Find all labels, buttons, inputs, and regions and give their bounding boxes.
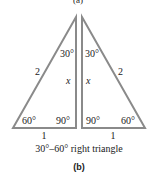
left-bottom-left-angle: 60°: [22, 115, 36, 126]
right-vertical-side: x: [85, 75, 91, 86]
figure-sub-label: (b): [73, 162, 85, 172]
figure-caption: 30°–60° right triangle: [35, 143, 123, 154]
right-top-angle: 30°: [85, 48, 99, 59]
left-top-angle: 30°: [60, 48, 74, 59]
top-partial-label: (a): [73, 0, 83, 5]
left-vertical-side: x: [65, 75, 71, 86]
left-bottom-right-angle: 90°: [56, 115, 70, 126]
right-bottom-right-angle: 60°: [121, 115, 135, 126]
right-base: 1: [111, 130, 116, 141]
right-hypotenuse: 2: [118, 66, 123, 77]
right-triangle: [82, 17, 145, 128]
left-triangle: [13, 17, 76, 128]
triangle-diagram: (a) 30° 2 x 60° 90° 1 30° 2 x 90° 60° 1 …: [0, 0, 155, 177]
left-base: 1: [42, 130, 47, 141]
left-hypotenuse: 2: [35, 66, 40, 77]
right-bottom-left-angle: 90°: [86, 115, 100, 126]
